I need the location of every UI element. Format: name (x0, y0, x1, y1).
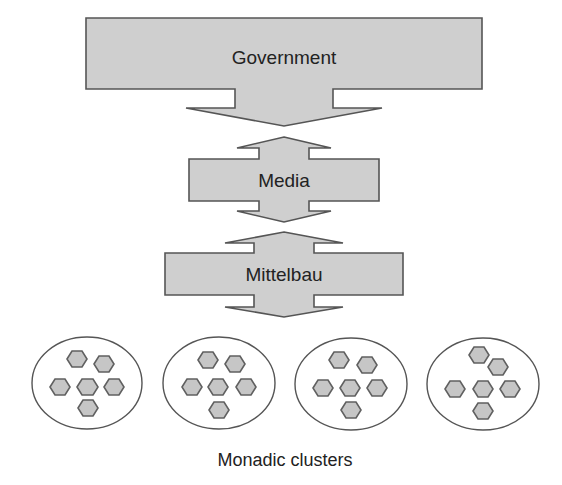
hexagon-icon (329, 352, 349, 368)
hexagon-icon (445, 381, 465, 397)
hexagon-icon (225, 356, 245, 372)
monadic-cluster-2 (163, 337, 275, 429)
hexagon-icon (78, 400, 98, 416)
hexagon-icon (236, 379, 256, 395)
hexagon-icon (357, 357, 377, 373)
hexagon-icon (367, 380, 387, 396)
hexagon-icon (500, 381, 520, 397)
hexagon-icon (77, 379, 98, 395)
hexagon-icon (182, 379, 202, 395)
hexagon-icon (94, 356, 114, 372)
media-label: Media (258, 170, 310, 191)
clusters-caption: Monadic clusters (217, 450, 352, 470)
monadic-cluster-4 (427, 338, 539, 430)
media-block: Media (189, 137, 379, 222)
government-block: Government (86, 18, 482, 126)
hexagon-icon (341, 402, 361, 418)
hierarchy-diagram: Government Media Mittelbau (0, 0, 562, 485)
hexagon-icon (473, 403, 493, 419)
hexagon-icon (488, 359, 508, 375)
mittelbau-block: Mittelbau (165, 232, 403, 317)
hexagon-icon (208, 379, 228, 395)
hexagon-icon (469, 347, 489, 363)
hexagon-icon (209, 402, 229, 418)
hexagon-icon (67, 351, 87, 367)
monadic-cluster-3 (295, 338, 407, 430)
hexagon-icon (313, 380, 333, 396)
government-label: Government (232, 47, 337, 68)
hexagon-icon (473, 381, 493, 397)
hexagon-icon (50, 379, 70, 395)
hexagon-icon (340, 380, 360, 396)
government-arrow-shape (86, 18, 482, 126)
hexagon-icon (104, 379, 124, 395)
mittelbau-label: Mittelbau (245, 264, 322, 285)
monadic-cluster-1 (32, 337, 142, 429)
hexagon-icon (198, 352, 218, 368)
